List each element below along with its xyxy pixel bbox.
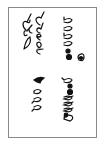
glyph-column-left-top xyxy=(23,12,44,54)
glyph-column-right-top xyxy=(64,17,84,61)
glyph-column-right-bottom xyxy=(62,78,73,121)
glyph-artwork xyxy=(0,0,105,144)
glyph-column-left-bottom xyxy=(32,77,44,111)
